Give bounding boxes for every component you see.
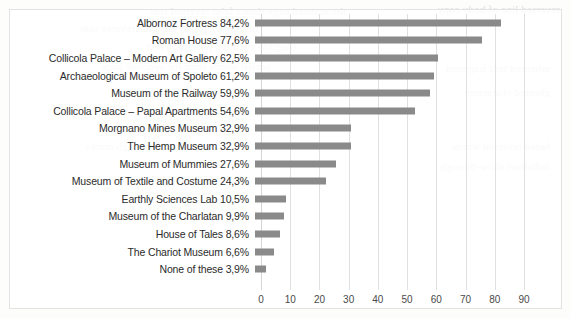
bar-cell [255,49,563,67]
bar-cell [255,84,563,102]
bar [255,160,336,167]
bar-cell [255,172,563,190]
bar-row-label: Museum of Mummies 27,6% [10,158,255,170]
bar-row: Morgnano Mines Museum 32,9% [10,120,563,138]
bar-cell [255,243,563,261]
bar-cell [255,190,563,208]
x-tick-label: 40 [372,294,383,305]
bar-row: Museum of Textile and Costume 24,3% [10,172,563,190]
bar-row: Museum of Mummies 27,6% [10,155,563,173]
bar [255,142,351,149]
bar-cell [255,208,563,226]
bar [255,248,274,255]
x-tick-label: 70 [460,294,471,305]
bar-cell [255,137,563,155]
bar-row: The Hemp Museum 32,9% [10,137,563,155]
bar-cell [255,32,563,50]
bar-row-label: House of Tales 8,6% [10,228,255,240]
bar [255,195,286,202]
bar-row: Collicola Palace – Papal Apartments 54,6… [10,102,563,120]
chart-page: the scanned page shows faint reversed te… [0,0,571,319]
x-tick-label: 50 [402,294,413,305]
bar-row-label: Albornoz Fortress 84,2% [10,17,255,29]
bar-row-label: Museum of the Charlatan 9,9% [10,210,255,222]
bar-row-label: Morgnano Mines Museum 32,9% [10,122,255,134]
bar-cell [255,155,563,173]
bar-cell [255,67,563,85]
bar-row-label: None of these 3,9% [10,263,255,275]
bar-row: Roman House 77,6% [10,32,563,50]
bar-row-label: The Hemp Museum 32,9% [10,140,255,152]
bar [255,230,280,237]
bar [255,54,438,61]
bar-rows: Albornoz Fortress 84,2%Roman House 77,6%… [10,14,563,278]
bar-row-label: The Chariot Museum 6,6% [10,246,255,258]
bar [255,125,351,132]
bar-row: Earthly Sciences Lab 10,5% [10,190,563,208]
bar-row-label: Collicola Palace – Modern Art Gallery 62… [10,52,255,64]
bar [255,107,415,114]
x-axis: 0102030405060708090 [261,294,524,310]
bar-cell [255,14,563,32]
x-tick-label: 60 [431,294,442,305]
bar-row-label: Archaeological Museum of Spoleto 61,2% [10,70,255,82]
bar-row-label: Roman House 77,6% [10,34,255,46]
bar-row-label: Earthly Sciences Lab 10,5% [10,193,255,205]
bar-row-label: Museum of the Railway 59,9% [10,87,255,99]
x-tick-label: 80 [489,294,500,305]
bar-row-label: Museum of Textile and Costume 24,3% [10,175,255,187]
bar-row: Museum of the Charlatan 9,9% [10,208,563,226]
bar-row: Museum of the Railway 59,9% [10,84,563,102]
x-tick-label: 20 [314,294,325,305]
bar-cell [255,102,563,120]
plot-area: Albornoz Fortress 84,2%Roman House 77,6%… [10,10,563,310]
x-tick-label: 90 [518,294,529,305]
chart-frame: Albornoz Fortress 84,2%Roman House 77,6%… [9,9,562,309]
bar-row: Collicola Palace – Modern Art Gallery 62… [10,49,563,67]
bar [255,37,482,44]
bar-cell [255,260,563,278]
bar-cell [255,225,563,243]
bar-row: None of these 3,9% [10,260,563,278]
bar-row: The Chariot Museum 6,6% [10,243,563,261]
x-tick-label: 30 [343,294,354,305]
bar [255,213,284,220]
bar-row: Archaeological Museum of Spoleto 61,2% [10,67,563,85]
bar-row: House of Tales 8,6% [10,225,563,243]
x-tick-label: 10 [285,294,296,305]
bar [255,72,434,79]
bar [255,90,430,97]
bar [255,178,326,185]
bar-row: Albornoz Fortress 84,2% [10,14,563,32]
bar [255,266,266,273]
bar [255,19,501,26]
bar-row-label: Collicola Palace – Papal Apartments 54,6… [10,105,255,117]
x-tick-label: 0 [258,294,264,305]
bar-cell [255,120,563,138]
